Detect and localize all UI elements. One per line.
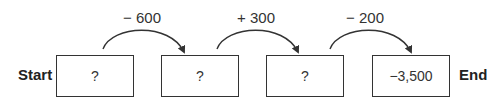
operation-2-label: + 300	[216, 9, 296, 26]
box-4-value: −3,500	[389, 68, 432, 84]
box-4: −3,500	[372, 55, 450, 97]
box-1-value: ?	[91, 68, 99, 84]
box-1: ?	[56, 55, 134, 97]
box-2: ?	[161, 55, 239, 97]
box-3: ?	[266, 55, 344, 97]
start-label: Start	[18, 66, 52, 83]
end-label: End	[459, 66, 487, 83]
arrow-1	[103, 30, 184, 52]
arrow-2	[217, 30, 298, 52]
box-2-value: ?	[196, 68, 204, 84]
operation-1-label: − 600	[102, 9, 182, 26]
arrow-3	[330, 30, 411, 52]
operation-3-label: − 200	[325, 9, 405, 26]
box-3-value: ?	[301, 68, 309, 84]
